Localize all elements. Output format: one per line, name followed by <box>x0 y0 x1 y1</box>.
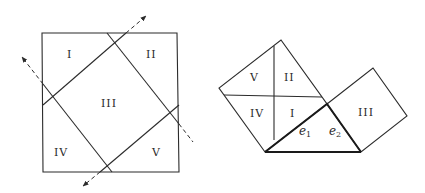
region-label-IV: IV <box>54 146 68 159</box>
region-label-V: V <box>151 146 161 159</box>
cut-line-lower <box>100 105 179 172</box>
cut-line-upper <box>43 33 126 105</box>
region-label-V: V <box>249 71 259 84</box>
square-e1-horizontal-cut <box>224 95 322 97</box>
region-label-IV: IV <box>250 107 264 120</box>
edge-label-e2: e2 <box>329 124 341 139</box>
edge-label-e1: e1 <box>299 124 311 139</box>
triangle-legs <box>265 104 361 152</box>
region-label-III: III <box>101 97 117 110</box>
region-label-I: I <box>290 107 295 120</box>
cut-line-right <box>107 33 179 124</box>
right-figure: V II IV I III e1 e2 <box>219 40 407 152</box>
dissection-diagram: I II III IV V V II IV I III e1 e2 <box>0 0 425 193</box>
region-label-II: II <box>146 48 157 61</box>
dashed-arrow-upper-left <box>22 57 43 84</box>
region-label-II: II <box>284 71 295 84</box>
dashed-arrow-lower-left <box>83 172 100 186</box>
left-figure: I II III IV V <box>22 16 193 186</box>
dashed-arrow-upper-right <box>126 16 146 33</box>
region-label-III: III <box>358 106 374 119</box>
region-label-I: I <box>67 48 72 61</box>
dashed-extension-lower-right <box>179 124 193 142</box>
